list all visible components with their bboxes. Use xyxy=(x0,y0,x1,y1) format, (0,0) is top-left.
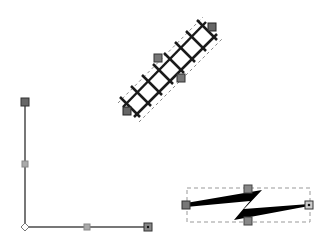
top-handle[interactable] xyxy=(244,185,252,193)
mid-handle[interactable] xyxy=(22,161,28,167)
end-handle[interactable] xyxy=(208,23,216,31)
corner-handle[interactable] xyxy=(21,223,29,231)
bottom-handle[interactable] xyxy=(244,217,252,225)
diagram-canvas xyxy=(0,0,330,238)
start-handle[interactable] xyxy=(182,201,190,209)
mid-handle[interactable] xyxy=(84,224,90,230)
elbow-connector[interactable] xyxy=(21,98,152,231)
mid-handle[interactable] xyxy=(177,74,185,82)
start-handle[interactable] xyxy=(21,98,29,106)
mid-handle[interactable] xyxy=(154,54,162,62)
railway-track-connector[interactable] xyxy=(118,17,222,122)
lightning-connector[interactable] xyxy=(182,185,313,225)
start-handle[interactable] xyxy=(123,107,131,115)
